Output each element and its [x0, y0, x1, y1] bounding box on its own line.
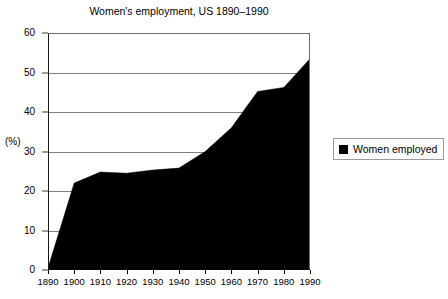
- y-tick-label: 10: [24, 226, 35, 236]
- x-tick-mark: [127, 270, 128, 274]
- y-tick-label: 30: [24, 147, 35, 157]
- y-tick-label: 60: [24, 28, 35, 38]
- y-tick-label: 0: [29, 265, 35, 275]
- x-tick-mark: [310, 270, 311, 274]
- chart-figure: Women's employment, US 1890–1990 (%) 010…: [0, 0, 448, 299]
- x-tick-mark: [231, 270, 232, 274]
- y-axis: 0102030405060: [0, 33, 48, 270]
- x-axis: 1890190019101920193019401950196019701980…: [48, 276, 310, 292]
- x-tick-label: 1970: [247, 276, 268, 287]
- x-tick-label: 1990: [299, 276, 320, 287]
- x-tick-mark: [74, 270, 75, 274]
- x-tick-mark: [284, 270, 285, 274]
- x-tick-label: 1950: [195, 276, 216, 287]
- x-tick-mark: [179, 270, 180, 274]
- x-tick-label: 1980: [273, 276, 294, 287]
- legend-label: Women employed: [353, 144, 437, 155]
- plot-area: [48, 33, 310, 270]
- chart-title: Women's employment, US 1890–1990: [48, 5, 310, 18]
- y-tick-label: 50: [24, 68, 35, 78]
- x-tick-label: 1960: [221, 276, 242, 287]
- x-tick-mark: [258, 270, 259, 274]
- x-tick-label: 1890: [37, 276, 58, 287]
- x-tick-mark: [48, 270, 49, 274]
- x-tick-mark: [153, 270, 154, 274]
- x-tick-label: 1920: [116, 276, 137, 287]
- y-tick-label: 20: [24, 186, 35, 196]
- x-tick-label: 1940: [168, 276, 189, 287]
- area-series-women-employed: [48, 33, 310, 270]
- chart-legend: Women employed: [333, 138, 444, 160]
- x-tick-label: 1900: [64, 276, 85, 287]
- x-tick-label: 1910: [90, 276, 111, 287]
- legend-swatch-icon: [339, 145, 348, 154]
- x-tick-mark: [100, 270, 101, 274]
- x-tick-label: 1930: [142, 276, 163, 287]
- x-tick-mark: [205, 270, 206, 274]
- y-tick-label: 40: [24, 107, 35, 117]
